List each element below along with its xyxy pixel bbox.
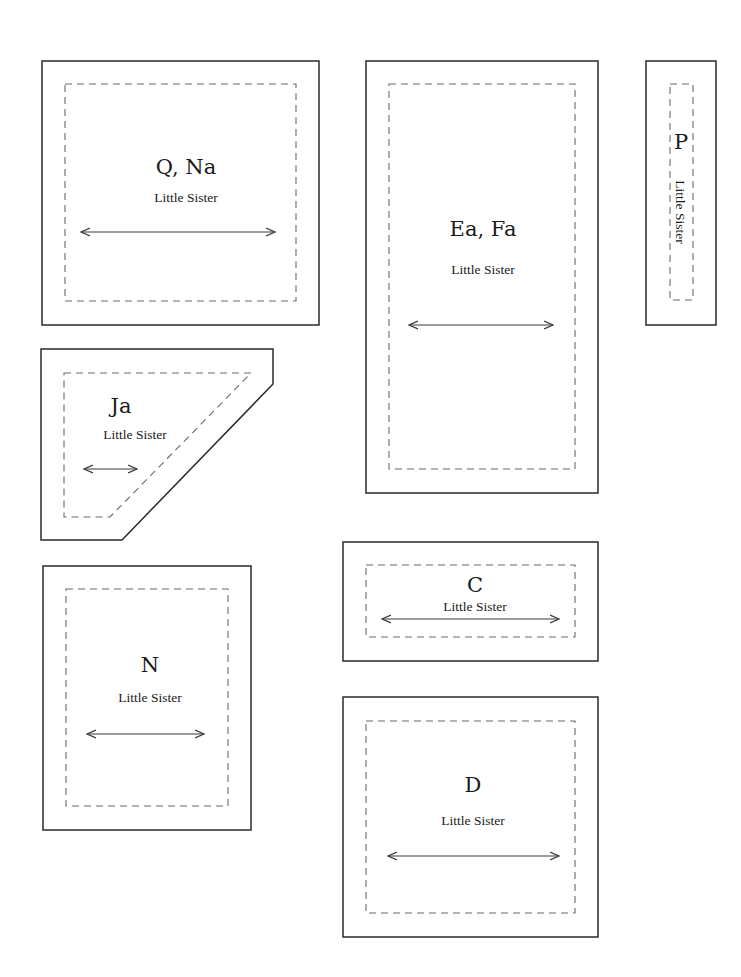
cut-line (366, 61, 598, 493)
piece-ea-fa: Ea, Fa Little Sister (366, 61, 598, 493)
piece-ja: Ja Little Sister (41, 349, 273, 540)
piece-d: D Little Sister (343, 697, 598, 937)
piece-sublabel: Little Sister (103, 427, 167, 442)
piece-sublabel: Little Sister (441, 813, 505, 828)
piece-label: Ea, Fa (450, 217, 517, 241)
piece-sublabel: Little Sister (118, 690, 182, 705)
piece-label: Q, Na (156, 155, 216, 179)
piece-label: C (467, 573, 483, 597)
piece-sublabel: Little Sister (673, 180, 688, 244)
piece-n: N Little Sister (43, 566, 251, 830)
piece-sublabel: Little Sister (154, 190, 218, 205)
cut-line (41, 349, 273, 540)
piece-label: P (674, 130, 688, 154)
piece-label: D (465, 773, 482, 797)
piece-q-na: Q, Na Little Sister (42, 61, 319, 325)
piece-p: P Little Sister (646, 61, 716, 325)
piece-label: N (141, 653, 159, 677)
piece-c: C Little Sister (343, 542, 598, 661)
pattern-sheet: Q, Na Little Sister Ea, Fa Little Sister… (0, 0, 741, 977)
piece-sublabel: Little Sister (451, 262, 515, 277)
piece-label: Ja (109, 394, 132, 418)
piece-sublabel: Little Sister (443, 599, 507, 614)
seam-line (64, 373, 251, 517)
